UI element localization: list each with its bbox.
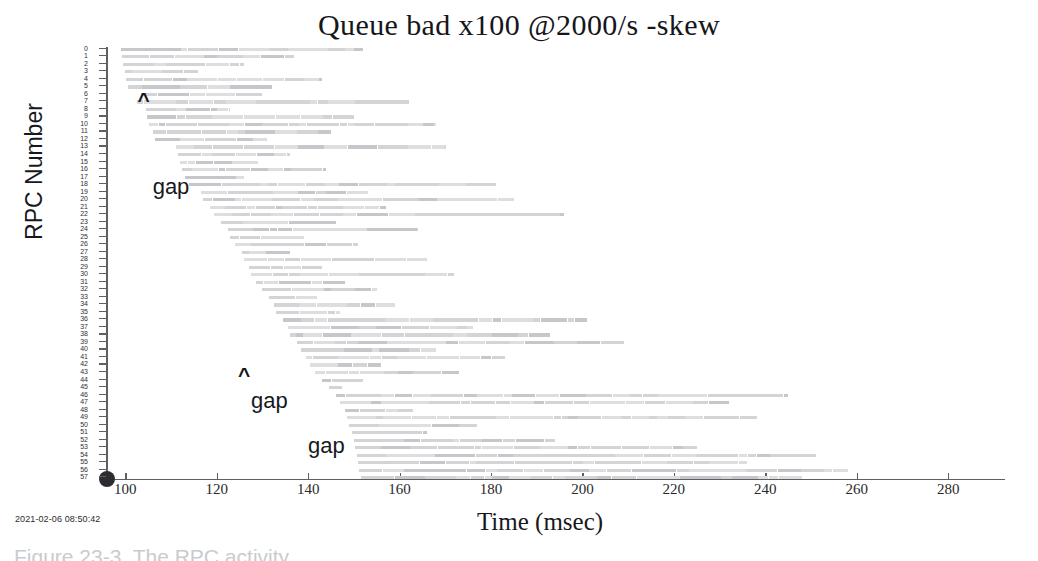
y-tick-label: 23 bbox=[80, 217, 88, 224]
rpc-bar-segment bbox=[615, 454, 643, 457]
rpc-bar-segment bbox=[475, 446, 481, 449]
rpc-bar-segment bbox=[335, 341, 347, 344]
rpc-bar-segment bbox=[410, 318, 434, 321]
rpc-bar-segment bbox=[452, 318, 478, 321]
y-tick bbox=[99, 454, 106, 455]
rpc-bar-segment bbox=[410, 446, 416, 449]
y-tick bbox=[99, 236, 106, 237]
rpc-bar-segment bbox=[704, 416, 732, 419]
rpc-bar-segment bbox=[466, 183, 485, 186]
rpc-bar-segment bbox=[420, 183, 439, 186]
rpc-bar-segment bbox=[492, 333, 517, 336]
y-tick bbox=[99, 168, 106, 169]
rpc-bar-segment bbox=[272, 198, 300, 201]
timestamp: 2021-02-06 08:50:42 bbox=[15, 514, 100, 524]
y-tick bbox=[99, 251, 106, 252]
rpc-bar-segment bbox=[326, 191, 346, 194]
rpc-bar-segment bbox=[379, 424, 408, 427]
y-tick-label: 57 bbox=[80, 473, 88, 480]
y-tick bbox=[99, 401, 106, 402]
rpc-bar-segment bbox=[534, 416, 554, 419]
rpc-bar-segment bbox=[399, 123, 409, 126]
rpc-bar-segment bbox=[340, 123, 347, 126]
rpc-bar-segment bbox=[332, 379, 342, 382]
y-tick bbox=[99, 100, 106, 101]
rpc-bar-segment bbox=[290, 333, 297, 336]
rpc-bar-segment bbox=[683, 446, 697, 449]
rpc-bar-segment bbox=[176, 145, 194, 148]
rpc-bar-segment bbox=[405, 333, 423, 336]
rpc-bar-segment bbox=[301, 115, 323, 118]
rpc-bar-segment bbox=[431, 394, 462, 397]
rpc-bar-segment bbox=[240, 236, 260, 239]
y-tick bbox=[99, 63, 106, 64]
rpc-bar-segment bbox=[375, 123, 399, 126]
rpc-bar-segment bbox=[125, 70, 132, 73]
rpc-bar-segment bbox=[355, 100, 385, 103]
rpc-bar-segment bbox=[601, 341, 618, 344]
rpc-bar-segment bbox=[162, 70, 184, 73]
y-tick bbox=[99, 145, 106, 146]
rpc-bar-segment bbox=[453, 439, 459, 442]
rpc-bar-segment bbox=[187, 78, 217, 81]
rpc-bar-segment bbox=[778, 469, 801, 472]
rpc-bar-segment bbox=[312, 281, 322, 284]
rpc-bar-segment bbox=[331, 288, 355, 291]
rpc-bar-segment bbox=[300, 273, 328, 276]
y-tick-label: 17 bbox=[80, 172, 88, 179]
rpc-bar-segment bbox=[404, 469, 436, 472]
rpc-bar-segment bbox=[438, 446, 452, 449]
rpc-bar-segment bbox=[340, 401, 371, 404]
rpc-bar-segment bbox=[206, 63, 230, 66]
y-tick-label: 53 bbox=[80, 443, 88, 450]
rpc-bar-segment bbox=[346, 394, 374, 397]
rpc-bar-segment bbox=[588, 454, 615, 457]
rpc-bar-segment bbox=[531, 476, 552, 479]
rpc-bar-segment bbox=[251, 213, 271, 216]
rpc-bar-segment bbox=[275, 130, 297, 133]
rpc-bar-segment bbox=[407, 258, 427, 261]
y-tick-label: 34 bbox=[80, 300, 88, 307]
rpc-bar-segment bbox=[190, 93, 205, 96]
rpc-bar-segment bbox=[357, 454, 386, 457]
rpc-bar-segment bbox=[307, 123, 332, 126]
rpc-bar-segment bbox=[300, 311, 327, 314]
y-tick bbox=[99, 78, 106, 79]
rpc-bar-segment bbox=[226, 100, 255, 103]
rpc-bar-segment bbox=[709, 401, 729, 404]
rpc-bar-segment bbox=[643, 394, 658, 397]
rpc-bar-segment bbox=[377, 431, 389, 434]
rpc-bar-segment bbox=[613, 394, 629, 397]
rpc-bar-segment bbox=[467, 469, 485, 472]
rpc-bar-segment bbox=[329, 386, 343, 389]
y-tick-label: 16 bbox=[80, 165, 88, 172]
rpc-bar-segment bbox=[225, 206, 246, 209]
rpc-bar-segment bbox=[189, 130, 201, 133]
rpc-bar-segment bbox=[293, 228, 325, 231]
rpc-bar-segment bbox=[685, 416, 704, 419]
rpc-bar-segment bbox=[268, 258, 284, 261]
x-tick-label: 280 bbox=[937, 481, 960, 498]
rpc-bar-segment bbox=[591, 446, 621, 449]
rpc-bar-segment bbox=[632, 469, 647, 472]
rpc-bar-segment bbox=[278, 183, 305, 186]
y-tick-label: 2 bbox=[84, 59, 88, 66]
rpc-bar-segment bbox=[342, 379, 363, 382]
rpc-bar-segment bbox=[294, 213, 319, 216]
rpc-bar-segment bbox=[287, 153, 290, 156]
rpc-bar-segment bbox=[297, 341, 313, 344]
rpc-bar-segment bbox=[245, 123, 262, 126]
y-tick bbox=[99, 191, 106, 192]
rpc-bar-segment bbox=[349, 424, 379, 427]
rpc-bar-segment bbox=[150, 85, 180, 88]
rpc-bar-segment bbox=[372, 288, 376, 291]
rpc-bar-segment bbox=[439, 183, 467, 186]
rpc-bar-segment bbox=[259, 221, 288, 224]
rpc-bar-segment bbox=[298, 326, 330, 329]
rpc-bar-segment bbox=[244, 258, 267, 261]
rpc-bar-segment bbox=[258, 191, 273, 194]
rpc-bar-segment bbox=[833, 469, 848, 472]
rpc-bar-segment bbox=[379, 348, 409, 351]
rpc-bar-segment bbox=[271, 100, 299, 103]
rpc-bar-segment bbox=[328, 48, 344, 51]
